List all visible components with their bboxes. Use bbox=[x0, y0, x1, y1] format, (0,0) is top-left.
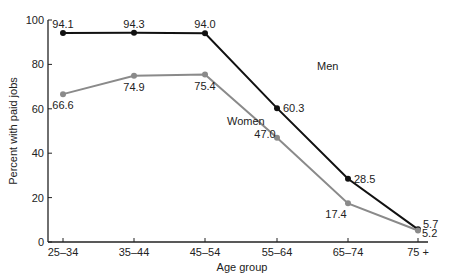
data-point-men bbox=[202, 30, 208, 36]
x-tick-label: 35–44 bbox=[119, 246, 150, 258]
data-label: 28.5 bbox=[354, 173, 375, 185]
x-tick-label: 75 + bbox=[407, 246, 429, 258]
y-tick-label: 80 bbox=[32, 58, 44, 70]
data-label: 5.2 bbox=[422, 227, 437, 239]
data-point-women bbox=[60, 91, 66, 97]
data-label: 17.4 bbox=[325, 208, 346, 220]
data-label: 74.9 bbox=[123, 81, 144, 93]
data-label: 47.0 bbox=[254, 128, 275, 140]
line-chart: 02040608010025–3435–4445–5455–6465–7475 … bbox=[0, 0, 449, 278]
data-point-women bbox=[345, 200, 351, 206]
data-point-men bbox=[274, 105, 280, 111]
y-tick-label: 60 bbox=[32, 103, 44, 115]
data-label: 75.4 bbox=[194, 80, 215, 92]
y-tick-label: 100 bbox=[26, 14, 44, 26]
data-label: 94.0 bbox=[194, 18, 215, 30]
data-label: 94.3 bbox=[123, 18, 144, 30]
data-point-women bbox=[131, 73, 137, 79]
x-tick-label: 45–54 bbox=[190, 246, 221, 258]
series-label-men: Men bbox=[317, 60, 338, 72]
data-point-men bbox=[60, 30, 66, 36]
series-line-men bbox=[63, 33, 418, 230]
y-tick-label: 20 bbox=[32, 192, 44, 204]
y-tick-label: 0 bbox=[38, 236, 44, 248]
y-tick-label: 40 bbox=[32, 147, 44, 159]
x-tick-label: 55–64 bbox=[262, 246, 293, 258]
data-label: 94.1 bbox=[52, 18, 73, 30]
data-label: 60.3 bbox=[283, 102, 304, 114]
data-label: 66.6 bbox=[52, 99, 73, 111]
data-point-women bbox=[415, 227, 421, 233]
data-point-men bbox=[345, 176, 351, 182]
data-point-men bbox=[131, 30, 137, 36]
y-axis-label: Percent with paid jobs bbox=[7, 77, 19, 185]
x-tick-label: 65–74 bbox=[333, 246, 364, 258]
series-line-women bbox=[63, 75, 418, 231]
x-axis-label: Age group bbox=[217, 261, 268, 273]
series-label-women: Women bbox=[227, 115, 265, 127]
x-tick-label: 25–34 bbox=[48, 246, 79, 258]
data-point-women bbox=[202, 72, 208, 78]
